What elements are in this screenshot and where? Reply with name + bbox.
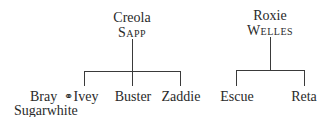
child-name: Ivey	[74, 89, 99, 104]
child-name: Escue	[220, 89, 253, 104]
parent-first-name: Creola	[113, 10, 150, 25]
parent-first-name: Roxie	[253, 8, 286, 23]
parent-last-name: Sapp	[118, 25, 146, 40]
spouse-last-name: Sugarwhite	[14, 103, 78, 117]
child-name: Zaddie	[162, 89, 201, 104]
marriage-symbol-icon: ⚭	[64, 89, 73, 104]
spouse-first-name: Bray	[30, 89, 57, 104]
child-name: Buster	[115, 89, 152, 104]
child-name: Reta	[291, 89, 317, 104]
parent-last-name: Welles	[247, 23, 293, 38]
